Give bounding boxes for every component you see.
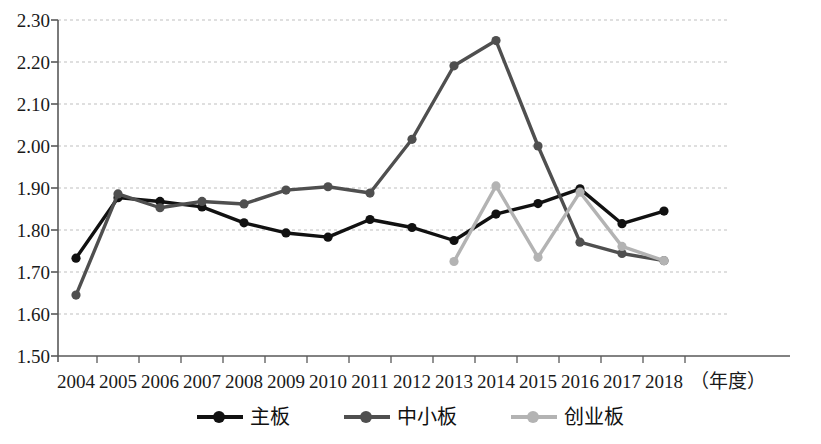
y-axis-tick-label: 1.70 — [0, 263, 50, 282]
legend-item-3[interactable]: 创业板 — [511, 407, 624, 427]
y-axis-tick-label: 1.90 — [0, 179, 50, 198]
data-point-marker — [491, 209, 500, 218]
legend-item-2[interactable]: 中小板 — [344, 407, 457, 427]
data-point-marker — [449, 236, 458, 245]
data-point-marker — [659, 207, 668, 216]
y-axis-tick-label: 2.20 — [0, 53, 50, 72]
data-point-marker — [239, 218, 248, 227]
data-point-marker — [197, 197, 206, 206]
series-line — [76, 41, 664, 296]
y-axis-tick-label: 1.80 — [0, 221, 50, 240]
chart-legend: 主板中小板创业板 — [0, 407, 821, 427]
legend-label: 主板 — [250, 407, 290, 427]
data-point-marker — [533, 199, 542, 208]
data-point-marker — [407, 135, 416, 144]
y-axis-tick-label: 1.60 — [0, 305, 50, 324]
legend-label: 中小板 — [397, 407, 457, 427]
data-point-marker — [281, 186, 290, 195]
data-point-marker — [71, 254, 80, 263]
legend-marker-icon — [511, 410, 557, 424]
legend-marker-icon — [197, 410, 243, 424]
data-point-marker — [71, 291, 80, 300]
y-axis-tick-label: 2.30 — [0, 11, 50, 30]
data-point-marker — [491, 181, 500, 190]
legend-dot — [360, 411, 372, 423]
data-point-marker — [323, 233, 332, 242]
data-point-marker — [365, 215, 374, 224]
data-point-marker — [323, 182, 332, 191]
data-point-marker — [491, 36, 500, 45]
data-point-marker — [659, 256, 668, 265]
x-axis-tick-label: 2018 — [639, 372, 689, 391]
data-point-marker — [113, 189, 122, 198]
series-2 — [71, 36, 668, 300]
legend-marker-icon — [344, 410, 390, 424]
y-axis-tick-label: 2.00 — [0, 137, 50, 156]
data-point-marker — [575, 188, 584, 197]
y-axis-tick-label: 1.50 — [0, 347, 50, 366]
data-point-marker — [365, 188, 374, 197]
y-axis-tick-label: 2.10 — [0, 95, 50, 114]
legend-item-1[interactable]: 主板 — [197, 407, 290, 427]
data-point-marker — [617, 242, 626, 251]
data-point-marker — [617, 219, 626, 228]
data-point-marker — [533, 253, 542, 262]
x-axis-unit-label: （年度） — [690, 372, 766, 391]
data-point-marker — [407, 223, 416, 232]
legend-label: 创业板 — [564, 407, 624, 427]
data-point-marker — [533, 141, 542, 150]
data-point-marker — [449, 257, 458, 266]
line-chart: 2.302.202.102.001.901.801.701.601.50 200… — [0, 0, 821, 444]
data-point-marker — [449, 61, 458, 70]
legend-dot — [213, 411, 225, 423]
data-point-marker — [155, 203, 164, 212]
data-point-marker — [281, 228, 290, 237]
legend-dot — [527, 411, 539, 423]
data-point-marker — [575, 238, 584, 247]
data-point-marker — [239, 199, 248, 208]
